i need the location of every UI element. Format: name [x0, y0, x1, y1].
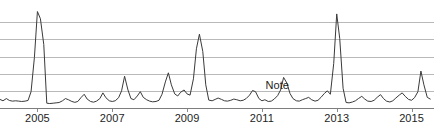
- x-tick-label-2009: 2009: [175, 112, 200, 124]
- x-tick-label-2005: 2005: [25, 112, 50, 124]
- x-tick-label-2011: 2011: [250, 112, 274, 124]
- sparkline-chart: 2005 2007 2009 2011 2013 2015 Note: [0, 0, 434, 135]
- chart-canvas: [0, 0, 434, 135]
- x-tick-label-2013: 2013: [324, 112, 349, 124]
- note-annotation-label: Note: [266, 79, 289, 91]
- gridlines: [0, 23, 434, 92]
- x-tick-label-2007: 2007: [100, 112, 125, 124]
- x-tick-label-2015: 2015: [399, 112, 424, 124]
